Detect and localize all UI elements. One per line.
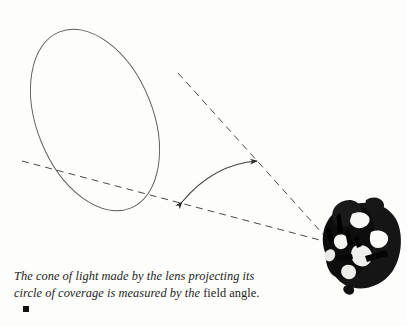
figure-caption: The cone of light made by the lens proje…: [14, 268, 274, 318]
upper-cone-ray: [178, 73, 331, 243]
camera-lens: [323, 198, 401, 295]
field-angle-arc: [182, 161, 257, 202]
end-of-section-mark: [23, 306, 29, 312]
lower-cone-ray: [22, 161, 331, 243]
caption-line-2-italic: circle of coverage is measured by the: [14, 286, 203, 300]
circle-of-coverage: [6, 10, 185, 230]
caption-line-2-roman: field angle.: [203, 286, 259, 300]
caption-line-1: The cone of light made by the lens proje…: [14, 269, 254, 283]
